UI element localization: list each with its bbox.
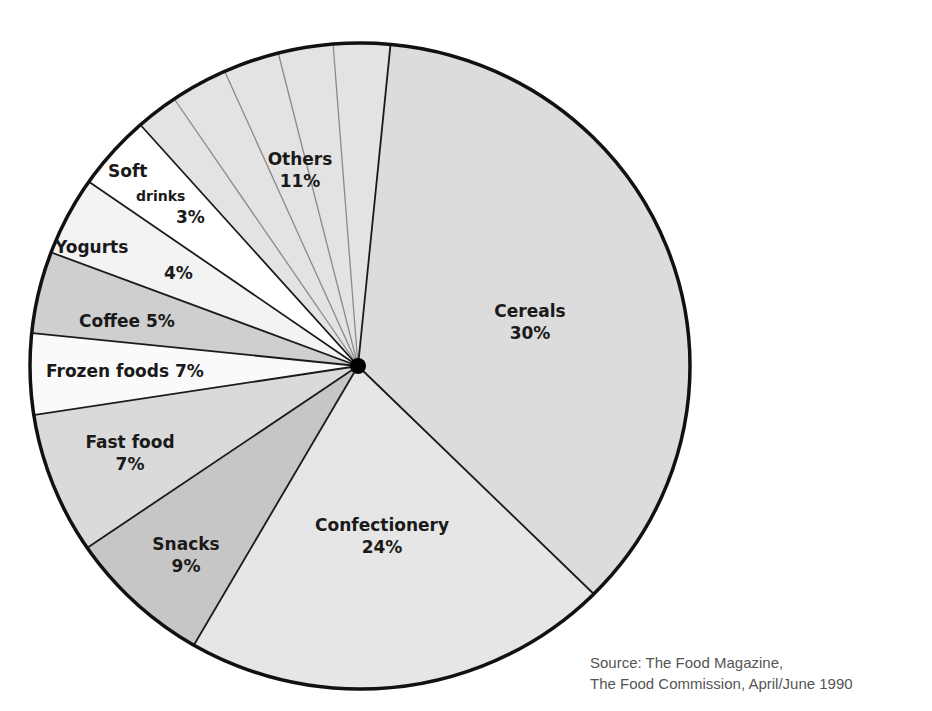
label-frozen-foods-text: Frozen foods 7% (46, 361, 204, 381)
label-others-pct: 11% (255, 170, 345, 192)
label-snacks-pct: 9% (140, 555, 232, 577)
label-confectionery-name: Confectionery (292, 514, 472, 536)
label-coffee: Coffee 5% (79, 310, 175, 332)
label-fast-food-name: Fast food (68, 431, 192, 453)
label-others-name: Others (255, 148, 345, 170)
label-soft-drinks-name1: Soft (108, 160, 147, 182)
source-line-1: Source: The Food Magazine, (590, 652, 853, 673)
label-snacks-name: Snacks (140, 533, 232, 555)
label-frozen-foods: Frozen foods 7% (46, 360, 204, 382)
label-soft-drinks-name2: drinks (136, 185, 185, 207)
label-cereals: Cereals 30% (470, 300, 590, 344)
label-cereals-pct: 30% (470, 322, 590, 344)
label-confectionery-pct: 24% (292, 536, 472, 558)
label-soft-drinks-pct: 3% (176, 206, 205, 228)
pie-center-dot (350, 358, 366, 374)
source-note: Source: The Food Magazine, The Food Comm… (590, 652, 853, 694)
label-fast-food-pct: 7% (68, 453, 192, 475)
label-cereals-name: Cereals (470, 300, 590, 322)
label-others: Others 11% (255, 148, 345, 192)
source-line-2: The Food Commission, April/June 1990 (590, 673, 853, 694)
label-yogurts: Yogurts (55, 236, 128, 258)
label-confectionery: Confectionery 24% (292, 514, 472, 558)
label-coffee-text: Coffee 5% (79, 311, 175, 331)
label-soft-drinks: Soft (108, 160, 147, 182)
label-yogurts-name: Yogurts (55, 236, 128, 258)
label-fast-food: Fast food 7% (68, 431, 192, 475)
label-yogurts-pct: 4% (164, 262, 193, 284)
label-snacks: Snacks 9% (140, 533, 232, 577)
pie-chart (0, 0, 932, 711)
